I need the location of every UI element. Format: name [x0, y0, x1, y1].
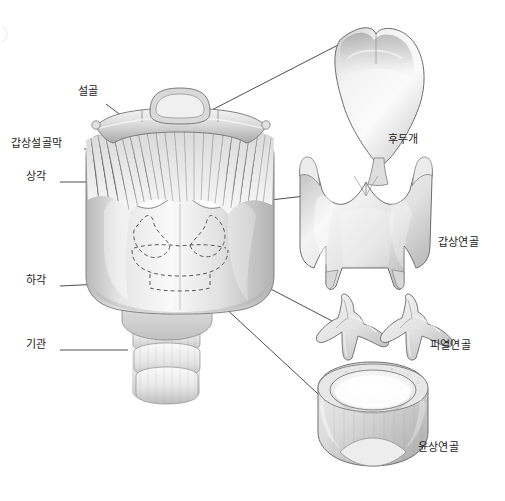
cricoid-cartilage-specimen	[318, 356, 428, 470]
larynx-main-view	[86, 88, 274, 408]
epiglottis-specimen	[335, 28, 424, 186]
label-trachea: 기관	[26, 339, 46, 350]
label-epiglottis: 후두개	[388, 134, 419, 145]
anatomy-illustration	[0, 0, 505, 501]
thyroid-cartilage-specimen	[300, 157, 433, 290]
arytenoid-cartilage-specimen-left	[316, 294, 388, 360]
label-thyrohyoid-membrane: 갑상설골막	[11, 138, 62, 149]
label-thyroid-cartilage: 갑상연골	[438, 237, 479, 248]
label-superior-horn: 상각	[26, 171, 46, 182]
leader-epiglottis	[204, 44, 340, 114]
label-inferior-horn: 하각	[26, 275, 46, 286]
label-hyoid-bone: 설골	[78, 86, 98, 97]
larynx-anatomy-figure: 설골 갑상설골막 상각 하각 기관 후두개 갑상연골 피열연골 윤상연골	[0, 0, 505, 501]
label-cricoid-cartilage: 윤상연골	[418, 442, 459, 453]
label-arytenoid-cartilage: 피열연골	[430, 340, 471, 351]
scan-artifact	[2, 27, 7, 41]
epiglottis-tip-in-main-view	[150, 88, 210, 124]
